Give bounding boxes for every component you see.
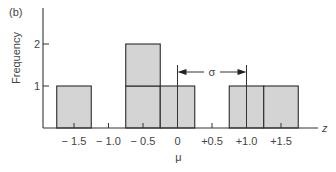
y-tick-label: 1 [34,80,40,92]
plot-area: − 1.5− 1.0− 0.50+0.5+1.0+1.512zμσ [0,0,336,172]
x-tick-label: +1.5 [270,135,292,147]
x-tick-label: +0.5 [201,135,223,147]
x-axis-label: z [321,122,328,134]
histogram-bar [264,86,299,128]
x-tick-label: − 1.0 [96,135,121,147]
x-tick-label: − 1.5 [62,135,87,147]
histogram-chart: (b) Frequency − 1.5− 1.0− 0.50+0.5+1.0+1… [0,0,336,172]
sigma-label: σ [209,66,216,78]
histogram-bar [57,86,92,128]
arrowhead-left-icon [178,69,187,75]
histogram-bar [126,86,161,128]
x-tick-label: − 0.5 [131,135,156,147]
histogram-bar [126,44,161,86]
arrowhead-right-icon [238,69,247,75]
y-tick-label: 2 [34,38,40,50]
x-tick-label: 0 [174,135,180,147]
x-tick-label: +1.0 [236,135,258,147]
mu-label: μ [175,151,181,163]
